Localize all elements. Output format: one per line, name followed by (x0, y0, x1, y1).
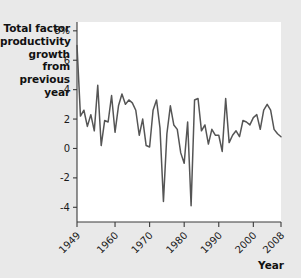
y-tick-label: 8% (54, 25, 70, 36)
y-tick-label: 4 (64, 84, 70, 95)
x-tick-label: 1949 (57, 230, 83, 256)
chart-figure: Total factor productivity growth from pr… (0, 0, 301, 278)
x-tick-label: 1970 (129, 230, 155, 256)
y-tick-label: 2 (64, 114, 70, 125)
y-tick-label: -2 (60, 172, 70, 183)
x-axis-label: Year (258, 259, 284, 271)
x-tick-label: 2008 (261, 230, 287, 256)
y-tick-label: 0 (64, 143, 70, 154)
x-tick-label: 2000 (233, 230, 259, 256)
x-tick-label: 1980 (164, 230, 190, 256)
y-tick-label: 6 (64, 55, 70, 66)
line-chart-plot: 8%6420-2-4 1949196019701980199020002008 (0, 0, 301, 278)
y-tick-label: -4 (60, 202, 70, 213)
x-axis-ticks: 1949196019701980199020002008 (57, 222, 287, 255)
x-tick-label: 1990 (198, 230, 224, 256)
y-axis-ticks: 8%6420-2-4 (54, 25, 77, 212)
x-tick-label: 1960 (95, 230, 121, 256)
